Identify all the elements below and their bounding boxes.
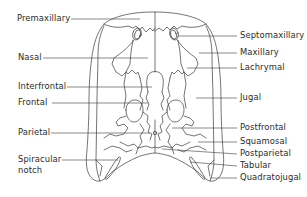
label-lachrymal: Lachrymal <box>240 63 285 72</box>
label-interfrontal: Interfrontal <box>18 82 66 91</box>
label-quadratojugal: Quadratojugal <box>240 173 301 182</box>
label-postfrontal: Postfrontal <box>240 123 286 132</box>
label-nasal: Nasal <box>18 53 42 62</box>
label-notch: notch <box>18 166 42 175</box>
skull-diagram: Premaxillary Nasal Interfrontal Frontal … <box>0 0 307 197</box>
left-orbit <box>126 100 143 122</box>
label-frontal: Frontal <box>18 98 47 107</box>
interfrontal-bone <box>147 72 164 93</box>
label-squamosal: Squamosal <box>240 137 287 146</box>
label-maxillary: Maxillary <box>240 48 279 57</box>
label-parietal: Parietal <box>18 128 50 137</box>
label-septomaxillary: Septomaxillary <box>240 31 304 40</box>
label-spiracular: Spiracular <box>18 155 61 164</box>
label-jugal: Jugal <box>240 93 261 102</box>
label-premaxillary: Premaxillary <box>17 14 70 23</box>
label-postparietal: Postparietal <box>240 149 291 158</box>
right-orbit <box>167 100 184 122</box>
label-tabular: Tabular <box>240 161 271 170</box>
